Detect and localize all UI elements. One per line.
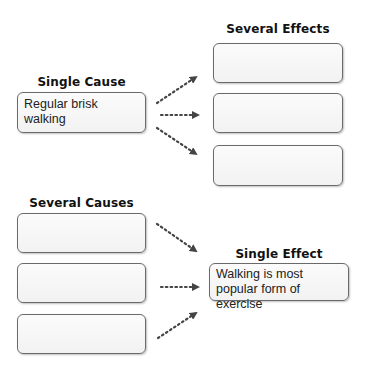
arrow-cause-3-to-effect (158, 313, 196, 338)
arrow-cause-to-effect-1 (157, 77, 196, 103)
arrow-cause-to-effect-3 (157, 128, 196, 154)
arrows-layer (0, 0, 372, 365)
arrow-cause-1-to-effect (157, 224, 196, 251)
